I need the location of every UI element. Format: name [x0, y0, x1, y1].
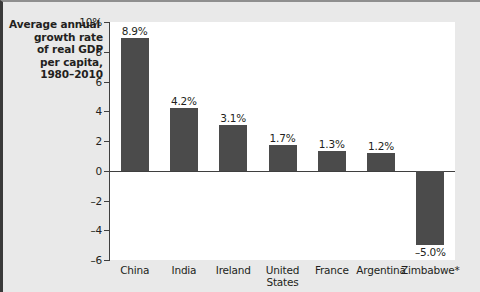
x-axis-category-label-line: Zimbabwe*	[394, 264, 466, 276]
bar-value-label: 8.9%	[99, 25, 171, 37]
y-axis-tick-label: –4	[90, 224, 102, 236]
chart-title-line-5: 1980–2010	[7, 68, 103, 81]
bar-value-label: 4.2%	[148, 95, 220, 107]
y-axis-tick-label: 8	[96, 46, 102, 58]
bar-value-label: 3.1%	[197, 112, 269, 124]
y-axis-tick	[104, 260, 110, 261]
bar-value-label: –5.0%	[394, 246, 466, 258]
x-axis-category-label-line: States	[247, 276, 319, 288]
bar	[367, 153, 395, 171]
y-axis-tick	[104, 201, 110, 202]
chart-figure: Average annual growth rate of real GDP p…	[0, 0, 480, 292]
plot-area: 10%86420–2–4–6 8.9%4.2%3.1%1.7%1.3%1.2%–…	[110, 22, 455, 260]
zero-baseline	[110, 171, 455, 172]
y-axis-tick	[104, 111, 110, 112]
bar	[318, 151, 346, 170]
y-axis-tick-label: 4	[96, 105, 102, 117]
y-axis-tick-label: –2	[90, 195, 102, 207]
y-axis-tick-label: 6	[96, 76, 102, 88]
bar	[416, 171, 444, 245]
y-axis-tick	[104, 230, 110, 231]
bar-value-label: 1.2%	[345, 140, 417, 152]
y-axis-tick	[104, 82, 110, 83]
bar	[121, 38, 149, 170]
bar	[170, 108, 198, 170]
chart-title-line-3: of real GDP	[7, 43, 103, 56]
chart-title-line-4: per capita,	[7, 56, 103, 69]
bar	[269, 145, 297, 170]
bar	[219, 125, 247, 171]
y-axis-tick-label: 2	[96, 135, 102, 147]
y-axis-tick	[104, 52, 110, 53]
y-axis-tick	[104, 171, 110, 172]
x-axis-category-label: Zimbabwe*	[394, 264, 466, 276]
y-axis-tick	[104, 141, 110, 142]
y-axis-tick	[104, 22, 110, 23]
y-axis-tick-label: 0	[96, 165, 102, 177]
chart-title-line-2: growth rate	[7, 31, 103, 44]
